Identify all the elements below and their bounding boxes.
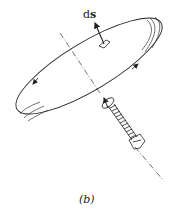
figure-caption: (b) bbox=[79, 193, 95, 206]
area-element-ds bbox=[95, 23, 110, 48]
diagram-canvas bbox=[0, 0, 178, 212]
circulation-arrow-left bbox=[33, 78, 38, 84]
ds-vector-label: ds bbox=[83, 8, 96, 21]
current-loop bbox=[5, 2, 174, 130]
ds-label-s: s bbox=[90, 8, 96, 21]
normal-axis bbox=[60, 33, 163, 180]
screw-icon bbox=[100, 96, 145, 149]
ds-label-d: d bbox=[83, 8, 90, 21]
